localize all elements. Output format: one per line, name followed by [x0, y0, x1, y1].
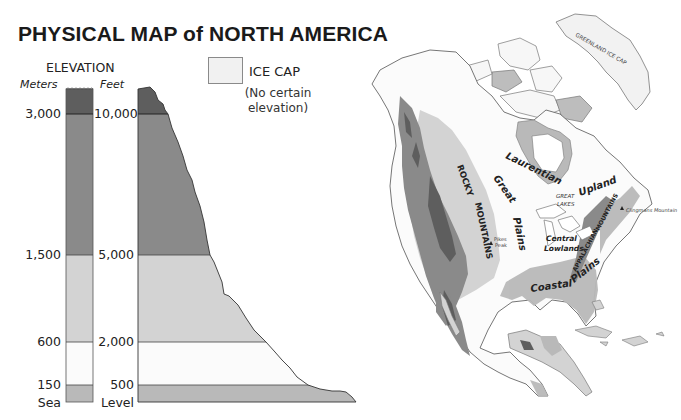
great-lakes-label-2: LAKES [557, 201, 575, 207]
elevation-scale [0, 0, 370, 420]
ice-cap-note-line2: elevation) [236, 101, 320, 115]
ice-cap-note-line1: (No certain [236, 86, 320, 100]
ice-cap-swatch [208, 57, 243, 84]
ice-cap-label: ICE CAP [249, 64, 300, 79]
great-lakes-label-1: GREAT [556, 193, 575, 199]
clingmans-label: Clingmans Mountain [626, 207, 677, 214]
pikes-label-2: Peak [495, 242, 507, 248]
north-america-map: GREENLAND ICE CAP [370, 0, 681, 420]
central-label: Central [546, 234, 577, 243]
greenland: GREENLAND ICE CAP [556, 14, 650, 110]
elevation-bar [66, 88, 93, 402]
elevation-profile [138, 80, 370, 402]
lowlands-label: Lowlands [544, 244, 584, 253]
